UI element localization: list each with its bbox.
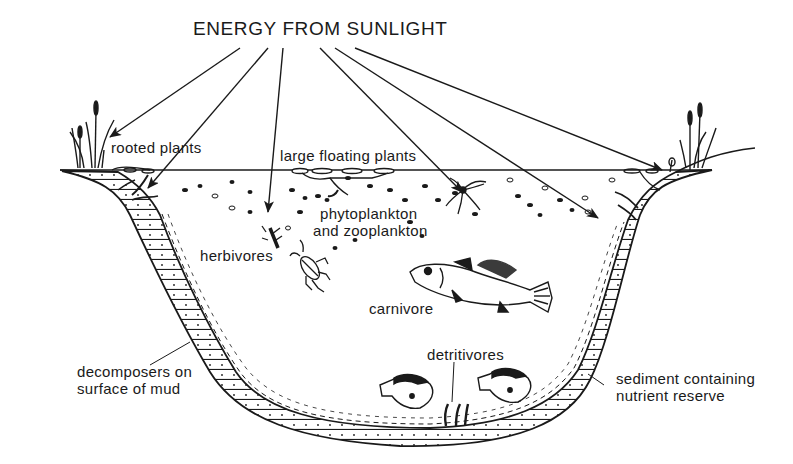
arrow-to-rooted-plants [110,48,240,137]
sediment-label-line2: nutrient reserve [616,387,725,404]
large-floating-plants-label: large floating plants [280,147,416,164]
zooplankton-icon [446,178,486,214]
phytoplankton-label-line2: and zooplankton [313,222,428,239]
energy-from-sunlight-title: ENERGY FROM SUNLIGHT [193,18,447,40]
carnivore-label: carnivore [369,300,433,317]
detritivores-leader [452,362,454,402]
phytoplankton-label-line1: phytoplankton [320,205,417,222]
detritivores-label: detritivores [427,346,504,363]
decomposers-label-line2: surface of mud [77,380,180,397]
rooted-plants-label: rooted plants [111,139,202,156]
herbivore-insect-icon [262,226,282,248]
sunlight-arrows [110,48,662,218]
bottom-fish-left-icon [380,375,433,409]
bottom-fish-right-icon [478,369,531,403]
pond-ecosystem-diagram: ENERGY FROM SUNLIGHT rooted plants large… [0,0,793,464]
arrow-to-phytoplankton [268,48,283,212]
large-floating-plant-icon [292,169,394,197]
arrow-to-open-water [335,48,598,218]
herbivores-label: herbivores [200,247,273,264]
decomposers-label-line1: decomposers on [77,363,192,380]
decomposers-leader [150,342,190,365]
arrow-to-submerged-plants [148,48,268,188]
herbivore-beetle-icon [290,240,330,292]
sediment-label-line1: sediment containing [616,370,755,387]
